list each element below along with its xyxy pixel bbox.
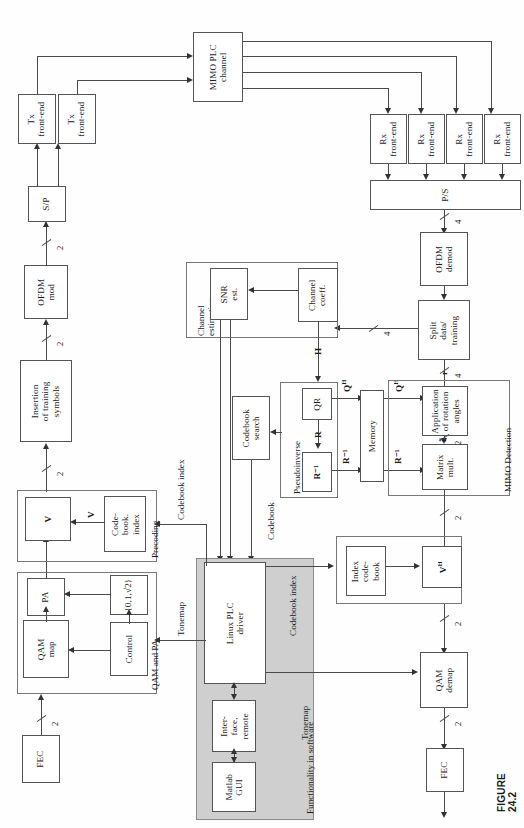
block-rx-front-end-3-label: Rxfront-end [454, 121, 475, 156]
block-application-rotation-angles: Applicationof rotationangles [422, 386, 468, 436]
block-ofdm-demod: OFDMdemod [420, 232, 468, 286]
block-control-label: Control [124, 635, 134, 664]
bus-mult-fec-qam: 2 [50, 722, 60, 726]
arrow-levels-to-pa [64, 591, 70, 597]
bus-mult-ofdm-sp: 2 [55, 246, 65, 250]
group-pseudoinverse-label: Pseudoinverse [292, 441, 302, 494]
wire-snr-rail-1 [220, 320, 221, 560]
block-rx-front-end-1-label: Rxfront-end [378, 121, 399, 156]
label-tonemap-right: Tonemap [300, 706, 310, 740]
block-ps-label: P/S [440, 188, 450, 201]
bus-mult-ins-ofdm: 2 [55, 342, 65, 346]
block-r-inverse: R⁻¹ [302, 452, 332, 492]
block-tx-front-end-2-label: Txfront-end [67, 101, 88, 136]
wire-tx2-right [77, 80, 189, 81]
block-rx-front-end-3: Rxfront-end [446, 114, 483, 164]
signal-label-rinv-1: R⁻¹ [340, 450, 351, 464]
block-fec-tx-label: FEC [36, 750, 46, 767]
arrow-driver-to-qampa [154, 637, 160, 643]
wire-driver-to-indexcb [266, 566, 328, 567]
wire-ch-out-3-down [421, 72, 422, 109]
block-fec-rx: FEC [426, 748, 464, 792]
bus-mult-mat-vh: 2 [453, 516, 463, 520]
wire-ps-to-ofdmdemod [444, 210, 445, 230]
arrow-v-to-insertion [43, 443, 49, 449]
bus-mult-v-ins: 2 [55, 472, 65, 476]
wire-ofdm-to-sp [46, 226, 47, 266]
block-insertion-training: Insertionof trainingsymbols [20, 360, 72, 442]
bus-mult-ps-ofdm: 4 [453, 220, 463, 224]
wire-split-to-chcoeff [340, 328, 418, 329]
wire-qr-to-memory [332, 398, 360, 399]
block-rx-front-end-1: Rxfront-end [370, 114, 407, 164]
arrow-fec-rx-out [441, 812, 447, 818]
block-ofdm-mod: OFDMmod [24, 265, 68, 319]
block-ps: P/S [370, 180, 521, 210]
block-control: Control [110, 622, 148, 676]
wire-cbindex-to-v [76, 522, 105, 523]
arrow-control-to-levels [126, 609, 132, 615]
block-index-codebook: Indexcode-book [346, 546, 386, 596]
block-split-data-training-label: Splitdata/training [429, 315, 460, 344]
block-tx-front-end-1: Txfront-end [18, 94, 56, 144]
block-snr-est-label: SNRest. [219, 285, 240, 303]
block-memory-label: Memory [367, 420, 377, 452]
wire-ch-out-4 [243, 88, 388, 89]
block-sp: S/P [28, 186, 66, 222]
wire-rinv-to-memory [332, 470, 360, 471]
block-channel-coeff-label: Channelcoeff. [308, 279, 329, 310]
wire-ch-out-4-down [388, 88, 389, 109]
arrow-fec-to-qam [38, 694, 44, 700]
wire-driver-to-qampa [160, 640, 206, 641]
arrow-qam-to-pa [43, 606, 49, 612]
bus-mult-vh-qam: 2 [453, 622, 463, 626]
block-r-inverse-label: R⁻¹ [312, 465, 322, 480]
bus-mult-split-rot: 4 [453, 374, 463, 378]
block-codebook-search: Codebooksearch [232, 396, 270, 460]
arrow-chcoeff-to-snr [248, 287, 254, 293]
bus-mult-qam-fec: 2 [453, 722, 463, 726]
wire-ch-out-1 [243, 41, 491, 42]
block-split-data-training: Splitdata/training [418, 300, 470, 360]
wire-v-to-insertion [46, 448, 47, 492]
block-fec-rx-label: FEC [440, 761, 450, 778]
block-codebook-search-label: Codebooksearch [241, 409, 262, 448]
arrow-driver-to-precoding [154, 521, 160, 527]
arrow-control-to-qam [68, 647, 74, 653]
block-pa-label: PA [41, 591, 51, 602]
bus-mult-rot-mat: 2 [453, 441, 463, 445]
wire-ch-out-1-down [491, 41, 492, 109]
wire-insertion-to-ofdm [46, 324, 47, 360]
label-codebook-index-right: Codebook index [288, 576, 298, 636]
wire-tx1-up [37, 56, 38, 94]
figure-canvas: FEC 2 QAM and PA QAMmap PA Control {0,1,… [0, 0, 524, 828]
arrow-interface-to-driver [231, 682, 237, 688]
label-codebook-top: Codebook [266, 502, 276, 540]
block-tx-front-end-1-label: Txfront-end [27, 101, 48, 136]
wire-ch-out-2 [243, 56, 456, 57]
arrow-interface-to-matlab [231, 757, 237, 763]
signal-label-r-vector: r [439, 371, 449, 375]
block-rx-front-end-2: Rxfront-end [408, 114, 445, 164]
block-matrix-mult-label: Matrixmult. [435, 454, 456, 480]
arrow-pseudo-to-cbsearch [270, 429, 276, 435]
block-channel-coeff: Channelcoeff. [298, 268, 338, 322]
arrow-driver-to-qamdemap [412, 669, 418, 675]
wire-chcoeff-to-snr [254, 290, 298, 291]
block-interface-remote: Inter-face,remote [212, 700, 256, 752]
block-levels-label: {0,1,√2} [124, 578, 134, 611]
block-codebook-index: Code-book.index [104, 496, 146, 552]
block-rx-front-end-4-label: Rxfront-end [492, 121, 513, 156]
block-matlab-gui: MatlabGUI [212, 762, 256, 812]
wire-control-to-qam [72, 650, 110, 651]
wire-qamdemap-to-fec [444, 708, 445, 746]
block-application-rotation-angles-label: Applicationof rotationangles [430, 389, 461, 433]
block-rx-front-end-2-label: Rxfront-end [416, 121, 437, 156]
wire-indexcb-to-vh [386, 566, 416, 567]
block-memory: Memory [360, 390, 384, 482]
signal-label-v: V [86, 511, 96, 518]
arrow-driver-to-interface [231, 694, 237, 700]
group-qam-and-pa-label: QAM and PA [150, 640, 160, 690]
block-qam-map-label: QAMmap [36, 638, 57, 660]
block-vh-label: VH [436, 561, 448, 573]
